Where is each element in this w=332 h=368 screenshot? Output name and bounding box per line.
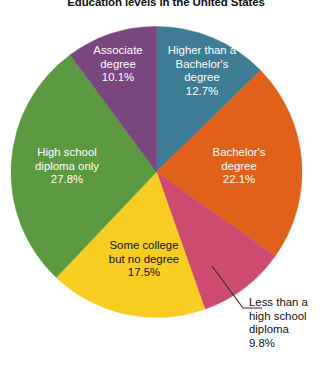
callout-label-line1: Less than a [249, 296, 308, 308]
pie-chart: Higher than a Bachelor's degree 12.7% Ba… [0, 0, 332, 368]
callout-label-line2: high school [249, 310, 307, 322]
callout-label-less-than-high-school: Less than a high school diploma 9.8% [249, 296, 331, 350]
callout-label-line3: diploma [249, 323, 289, 335]
pie-slice-group [11, 27, 302, 318]
callout-percent: 9.8% [249, 337, 275, 349]
